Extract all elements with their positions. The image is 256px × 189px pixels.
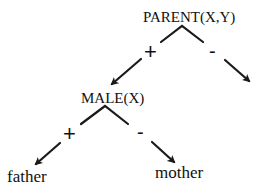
parent-split-caret [161, 26, 203, 42]
male-split-caret [81, 106, 128, 124]
parent-negative-arrow [225, 60, 249, 81]
parent-negative-sign: - [209, 40, 216, 62]
male-negative-arrow [152, 142, 174, 162]
node-parent-label: PARENT(X,Y) [143, 9, 235, 26]
parent-positive-sign: + [144, 39, 157, 64]
node-male-label: MALE(X) [81, 90, 144, 107]
parent-positive-arrow [112, 59, 141, 84]
male-negative-sign: - [137, 121, 144, 143]
tree-svg: PARENT(X,Y) + - MALE(X) + - father mothe… [0, 0, 256, 189]
male-positive-arrow [36, 143, 60, 164]
leaf-mother-label: mother [155, 163, 203, 182]
decision-tree-diagram: PARENT(X,Y) + - MALE(X) + - father mothe… [0, 0, 256, 189]
male-positive-sign: + [63, 121, 76, 146]
leaf-father-label: father [7, 167, 47, 186]
